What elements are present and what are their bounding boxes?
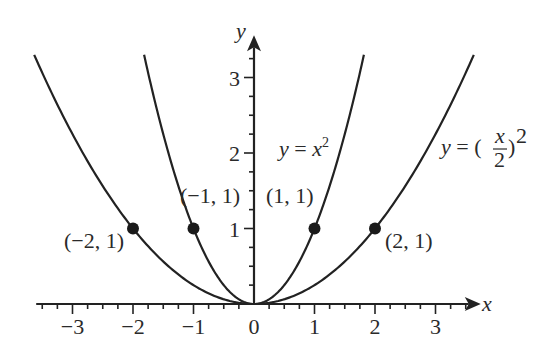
svg-text:): ) (508, 134, 515, 159)
x-tick-label: 2 (370, 314, 381, 339)
x-tick-label: −2 (121, 314, 144, 339)
point-label: (1, 1) (266, 183, 314, 208)
y-tick-label: 1 (229, 217, 240, 242)
point-marker (309, 223, 321, 235)
svg-text:x: x (494, 123, 505, 148)
y-tick-label: 2 (229, 141, 240, 166)
highlighted-points: (−2, 1)(−1, 1)(1, 1)(2, 1) (64, 183, 433, 253)
svg-text:2: 2 (494, 147, 505, 172)
x-tick-label: −3 (61, 314, 84, 339)
x-tick-label: 0 (249, 314, 260, 339)
y-tick-label: 3 (229, 66, 240, 91)
svg-text:y = x2: y = x2 (277, 135, 329, 161)
tick-labels: −3−2−10123123 (61, 66, 441, 340)
x-tick-label: 3 (430, 314, 441, 339)
point-marker (188, 223, 200, 235)
x-axis-label: x (481, 291, 492, 316)
y-axis-label: y (234, 18, 246, 43)
equation-label-half-x-squared: y = ( x 2 ) 2 (439, 123, 527, 172)
x-tick-label: 1 (309, 314, 320, 339)
point-marker (127, 223, 139, 235)
parabola-graph: −3−2−10123123 (−2, 1)(−1, 1)(1, 1)(2, 1)… (0, 0, 551, 358)
equation-label-x-squared: y = x2 (277, 135, 329, 161)
point-label: (2, 1) (385, 228, 433, 253)
point-label: (−2, 1) (64, 228, 124, 253)
point-marker (369, 223, 381, 235)
svg-text:2: 2 (516, 123, 527, 148)
point-label: (−1, 1) (180, 183, 240, 208)
svg-text:y = (: y = ( (439, 134, 482, 159)
x-tick-label: −1 (182, 314, 205, 339)
